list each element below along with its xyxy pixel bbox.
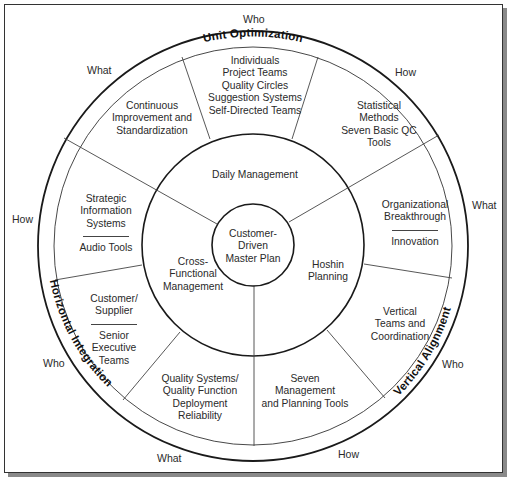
sector-line: Customer/ [74,293,154,305]
sector-line: Systems [66,218,146,230]
sector-top-left: Continuous Improvement and Standardizati… [102,100,202,137]
middle-line: Management [155,281,231,293]
middle-cross-functional: Cross- Functional Management [155,256,231,293]
middle-line: Planning [300,271,356,283]
sector-line: and Planning Tools [255,398,355,410]
sector-line: Deployment [150,398,250,410]
sector-line: Audio Tools [66,242,146,254]
outside-label-top: Who [243,13,265,25]
sector-line: Vertical [358,306,442,318]
sector-line: Teams [74,355,154,367]
sector-bottom-left: Quality Systems/ Quality Function Deploy… [150,373,250,423]
middle-hoshin-planning: Hoshin Planning [300,259,356,284]
sector-line: Statistical [334,100,424,112]
center-line: Customer- [213,228,293,240]
sector-divider [83,236,129,237]
sector-left: Strategic Information Systems Audio Tool… [66,193,146,255]
center-line: Driven [213,240,293,252]
sector-line: Management [255,385,355,397]
sector-right: Organizational Breakthrough Innovation [370,199,460,248]
sector-line: Suggestion Systems [195,92,315,104]
sector-line: Seven [255,373,355,385]
middle-line: Cross- [155,256,231,268]
sector-left-lower: Customer/ Supplier Senior Executive Team… [74,293,154,367]
sector-line: Information [66,205,146,217]
sector-line: Methods [334,112,424,124]
sector-bottom-right: Seven Management and Planning Tools [255,373,355,410]
sector-line: Teams and [358,318,442,330]
ring-title-top: Unit Optimization [202,26,304,44]
sector-divider [91,324,137,325]
sector-line: Executive [74,342,154,354]
outside-label-right: What [472,199,497,211]
sector-line: Organizational [370,199,460,211]
sector-line: Project Teams [195,67,315,79]
sector-line: Strategic [66,193,146,205]
outside-label-left-lower: Who [43,357,65,369]
sector-divider [392,230,438,231]
middle-line: Functional [155,268,231,280]
sector-line: Quality Function [150,385,250,397]
outside-label-right-lower: Who [442,358,464,370]
outside-label-left: How [12,213,33,225]
sector-line: Tools [334,137,424,149]
sector-line: Improvement and [102,112,202,124]
sector-line: Quality Circles [195,80,315,92]
sector-line: Standardization [102,125,202,137]
sector-line: Reliability [150,410,250,422]
outside-label-top-right: How [395,66,416,78]
sector-line: Coordination [358,331,442,343]
sector-top-right: Statistical Methods Seven Basic QC Tools [334,100,424,150]
sector-line: Quality Systems/ [150,373,250,385]
middle-daily-management: Daily Management [190,169,320,181]
sector-line: Innovation [370,236,460,248]
outside-label-bottom-right: How [338,448,359,460]
sector-line: Supplier [74,305,154,317]
middle-line: Hoshin [300,259,356,271]
sector-line: Self-Directed Teams [195,105,315,117]
sector-line: Continuous [102,100,202,112]
sector-line: Breakthrough [370,211,460,223]
sector-top: Individuals Project Teams Quality Circle… [195,55,315,117]
sector-line: Individuals [195,55,315,67]
sector-line: Senior [74,330,154,342]
outside-label-bottom-left: What [157,452,182,464]
sector-line: Seven Basic QC [334,125,424,137]
outside-label-top-left: What [87,64,112,76]
sector-right-lower: Vertical Teams and Coordination [358,306,442,343]
